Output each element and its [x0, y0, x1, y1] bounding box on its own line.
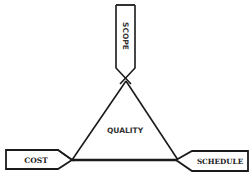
- triple-constraint-diagram: SCOPE COST SCHEDULE QUALITY: [0, 0, 250, 181]
- schedule-pointer: SCHEDULE: [176, 151, 248, 171]
- diagram-svg: SCOPE COST SCHEDULE QUALITY: [0, 0, 250, 181]
- quality-label: QUALITY: [107, 126, 144, 135]
- cost-label: COST: [24, 156, 48, 165]
- scope-pointer: SCOPE: [116, 5, 135, 84]
- cost-pointer: COST: [6, 150, 74, 169]
- schedule-label: SCHEDULE: [197, 157, 244, 166]
- quality-triangle: [72, 81, 178, 160]
- scope-label: SCOPE: [121, 22, 130, 50]
